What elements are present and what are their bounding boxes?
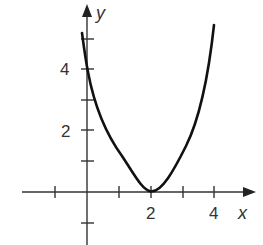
y-tick-label-2: 2	[61, 122, 70, 141]
parabola-curve	[82, 25, 214, 192]
x-tick-label-2: 2	[146, 204, 155, 223]
x-axis-label: x	[237, 203, 248, 223]
y-tick-label-4: 4	[60, 60, 69, 79]
y-axis-label: y	[94, 3, 106, 23]
parabola-graph: y x 4 2 2 4	[0, 0, 263, 245]
x-axis-arrow-icon	[243, 187, 256, 197]
x-tick-label-4: 4	[209, 204, 218, 223]
y-axis-arrow-icon	[82, 4, 92, 17]
